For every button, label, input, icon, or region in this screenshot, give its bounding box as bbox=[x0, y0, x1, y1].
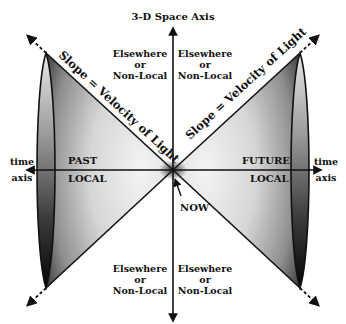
svg-text:axis: axis bbox=[12, 172, 33, 183]
ray-lower-left bbox=[30, 288, 46, 303]
elsewhere-top-right: Elsewhere or Non-Local bbox=[178, 48, 233, 81]
future-local-label: LOCAL bbox=[250, 173, 289, 184]
svg-text:Elsewhere: Elsewhere bbox=[113, 263, 167, 274]
svg-text:Elsewhere: Elsewhere bbox=[178, 263, 232, 274]
past-local-label: LOCAL bbox=[68, 173, 107, 184]
svg-text:Non-Local: Non-Local bbox=[178, 70, 233, 81]
ray-lower-right bbox=[300, 288, 316, 303]
svg-text:Non-Local: Non-Local bbox=[178, 285, 233, 296]
future-label: FUTURE bbox=[242, 155, 290, 166]
elsewhere-bottom-right: Elsewhere or Non-Local bbox=[178, 263, 233, 296]
svg-text:Elsewhere: Elsewhere bbox=[113, 48, 167, 59]
now-arrow bbox=[176, 182, 181, 196]
ray-upper-left bbox=[30, 38, 46, 53]
now-label: NOW bbox=[180, 202, 210, 213]
svg-text:time: time bbox=[10, 156, 34, 167]
svg-text:or: or bbox=[199, 274, 211, 285]
svg-text:Non-Local: Non-Local bbox=[113, 285, 168, 296]
svg-text:or: or bbox=[134, 274, 146, 285]
svg-text:or: or bbox=[199, 59, 211, 70]
svg-text:Elsewhere: Elsewhere bbox=[178, 48, 232, 59]
space-axis-label: 3-D Space Axis bbox=[131, 11, 214, 22]
elsewhere-top-left: Elsewhere or Non-Local bbox=[113, 48, 168, 81]
svg-text:time: time bbox=[314, 156, 338, 167]
svg-text:Non-Local: Non-Local bbox=[113, 70, 168, 81]
svg-text:axis: axis bbox=[316, 172, 337, 183]
past-label: PAST bbox=[68, 155, 98, 166]
elsewhere-bottom-left: Elsewhere or Non-Local bbox=[113, 263, 168, 296]
svg-text:or: or bbox=[134, 59, 146, 70]
light-cone-diagram: 3-D Space Axis Elsewhere or Non-Local El… bbox=[0, 0, 346, 324]
